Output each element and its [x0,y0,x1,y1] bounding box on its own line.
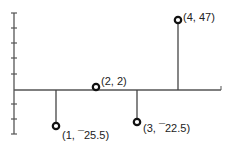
stem-plot: (1, ¯25.5) (2, 2) (3, ¯22.5) (4, 47) [0,0,232,156]
marker-1 [53,123,59,129]
marker-2 [93,84,99,90]
point-label-3: (3, ¯22.5) [143,122,190,134]
marker-4 [175,17,181,23]
point-label-1: (1, ¯25.5) [62,129,109,141]
marker-3 [134,119,140,125]
point-label-2: (2, 2) [101,75,127,87]
point-label-4: (4, 47) [183,11,215,23]
